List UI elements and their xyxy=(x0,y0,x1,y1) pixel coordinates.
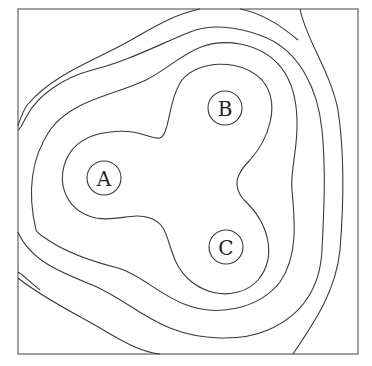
charge-C: C xyxy=(209,230,243,264)
charge-B: B xyxy=(208,91,242,125)
contour-line-2 xyxy=(32,43,297,311)
equipotential-diagram: A B C xyxy=(0,0,372,366)
contour-line-5 xyxy=(240,9,298,40)
diagram-frame xyxy=(18,9,358,354)
charge-label-A: A xyxy=(96,167,112,191)
charge-A: A xyxy=(87,161,121,195)
contour-line-3 xyxy=(18,27,324,338)
charge-label-B: B xyxy=(218,97,233,121)
charge-label-C: C xyxy=(218,236,233,260)
